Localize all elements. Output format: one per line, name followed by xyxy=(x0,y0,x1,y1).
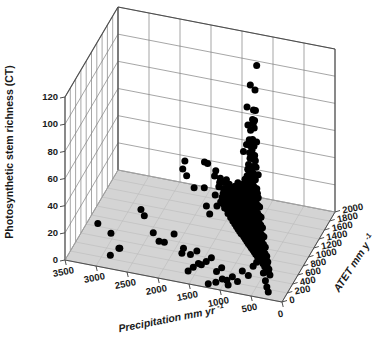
data-point xyxy=(265,289,272,296)
data-point xyxy=(203,202,210,209)
data-point xyxy=(191,184,198,191)
tick-label-y-0: 0 xyxy=(53,254,58,265)
data-point xyxy=(253,259,260,266)
data-point xyxy=(180,245,187,252)
data-point xyxy=(195,260,202,267)
data-point xyxy=(150,229,157,236)
data-point xyxy=(201,158,208,165)
data-point xyxy=(116,245,123,252)
data-point xyxy=(181,158,188,165)
data-point xyxy=(161,239,168,246)
y-axis-title: Photosynthetic stem richness (CT) xyxy=(3,65,15,238)
data-point xyxy=(244,166,251,173)
data-point xyxy=(245,272,252,279)
data-point xyxy=(243,141,250,148)
tick-label-y-40: 40 xyxy=(47,200,58,211)
data-point xyxy=(206,211,213,218)
data-point xyxy=(94,220,101,227)
data-point xyxy=(234,278,241,285)
tick-label-y-20: 20 xyxy=(47,227,58,238)
data-point xyxy=(250,107,257,114)
data-point xyxy=(201,184,208,191)
data-point xyxy=(212,279,219,286)
data-point xyxy=(141,212,148,219)
data-point xyxy=(179,165,186,172)
data-point xyxy=(183,172,190,179)
tick-label-y-120: 120 xyxy=(42,91,58,102)
data-point xyxy=(212,191,219,198)
data-point xyxy=(171,231,178,238)
data-point xyxy=(193,248,200,255)
data-point xyxy=(239,268,246,275)
data-point xyxy=(218,200,225,207)
data-point xyxy=(215,183,222,190)
data-point xyxy=(107,252,114,259)
data-point xyxy=(107,230,114,237)
scatter3d-chart: 0204060801001203500300025002000150010005… xyxy=(0,0,392,341)
data-point xyxy=(219,275,226,282)
data-point xyxy=(253,62,260,69)
data-point xyxy=(247,155,254,162)
data-point xyxy=(247,82,254,89)
tick-label-y-60: 60 xyxy=(47,173,58,184)
data-point xyxy=(208,254,215,261)
data-point xyxy=(229,273,236,280)
data-point xyxy=(137,206,144,213)
data-point xyxy=(247,127,254,134)
data-point xyxy=(240,148,247,155)
tick-label-y-100: 100 xyxy=(42,118,58,129)
data-point xyxy=(205,280,212,287)
data-point xyxy=(260,269,267,276)
y-axis-title-text: Photosynthetic stem richness (CT) xyxy=(3,65,15,238)
tick-label-y-80: 80 xyxy=(47,146,58,157)
data-point xyxy=(262,277,269,284)
data-point xyxy=(225,282,232,289)
chart-container: 0204060801001203500300025002000150010005… xyxy=(0,0,392,341)
data-point xyxy=(244,103,251,110)
data-point xyxy=(218,264,225,271)
data-point xyxy=(211,173,218,180)
data-point xyxy=(187,251,194,258)
data-point xyxy=(258,252,265,259)
